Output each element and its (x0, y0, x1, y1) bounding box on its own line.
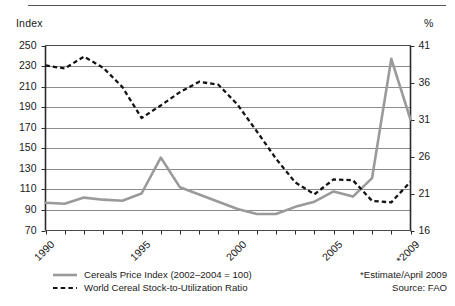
left-tick-label: 190 (7, 100, 37, 112)
series-line-1 (46, 57, 411, 203)
right-tick-label: 41 (419, 39, 449, 51)
x-axis-tick-marks (47, 231, 412, 235)
estimate-note: *Estimate/April 2009 (360, 268, 447, 281)
legend-label-stock-ratio: World Cereal Stock-to-Utilization Ratio (84, 282, 248, 294)
right-tick-label: 26 (419, 150, 449, 162)
right-tick-label: 31 (419, 113, 449, 125)
left-tick-label: 130 (7, 162, 37, 174)
source-note: Source: FAO (360, 281, 447, 294)
grid-lines (46, 67, 411, 211)
legend-item-stock-ratio: World Cereal Stock-to-Utilization Ratio (52, 281, 252, 294)
legend-swatch-solid (52, 269, 78, 281)
plot-frame (46, 46, 411, 231)
legend-item-price-index: Cereals Price Index (2002–2004 = 100) (52, 268, 252, 281)
left-tick-label: 150 (7, 141, 37, 153)
chart-figure: Index % 2502302101901701501301109070 413… (0, 0, 455, 306)
left-tick-label: 110 (7, 182, 37, 194)
left-tick-label: 250 (7, 39, 37, 51)
chart-notes: *Estimate/April 2009 Source: FAO (360, 268, 447, 294)
right-tick-label: 21 (419, 187, 449, 199)
data-series-lines (46, 57, 411, 214)
left-tick-label: 70 (7, 224, 37, 236)
left-tick-label: 90 (7, 203, 37, 215)
series-line-0 (46, 59, 411, 214)
chart-legend: Cereals Price Index (2002–2004 = 100) Wo… (52, 268, 252, 294)
legend-label-price-index: Cereals Price Index (2002–2004 = 100) (84, 269, 252, 281)
left-tick-label: 170 (7, 121, 37, 133)
right-tick-label: 16 (419, 224, 449, 236)
right-tick-label: 36 (419, 76, 449, 88)
left-tick-label: 230 (7, 59, 37, 71)
left-tick-label: 210 (7, 80, 37, 92)
legend-swatch-dashed (52, 282, 78, 294)
